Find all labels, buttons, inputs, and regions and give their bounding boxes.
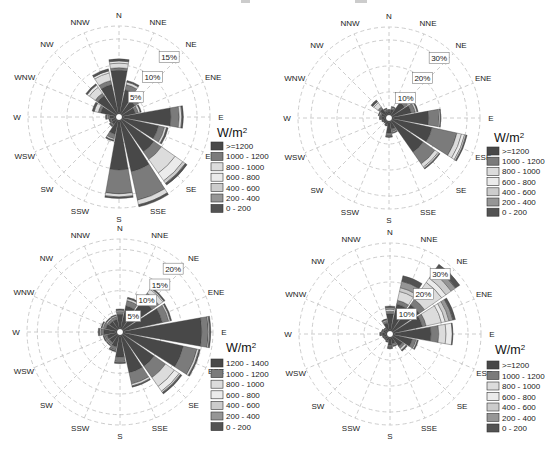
legend-label: 400 - 600 [502, 188, 536, 197]
legend-swatch [487, 208, 499, 216]
cropped-text-artifact [355, 0, 367, 3]
legend-swatch [487, 361, 499, 369]
ring-label: 15% [152, 281, 168, 290]
legend-swatch [211, 423, 223, 431]
direction-label-e: E [221, 328, 226, 337]
legend-title: W/m2 [495, 343, 526, 358]
legend-label: 600 - 800 [502, 393, 536, 402]
ring-label: 10% [398, 94, 414, 103]
petal-segment-E [438, 324, 446, 343]
rose-center-dot [117, 329, 124, 336]
figure-canvas: 5%10%15%NNNENEENEEESESESSESSSWSWWSWWWNWN… [0, 0, 547, 452]
legend-swatch [211, 370, 223, 378]
ring-label: 20% [414, 74, 430, 83]
wave-rose-bottom-left: 5%10%15%20%NNNENEENEEESESESSESSSWSWWSWWW… [12, 224, 269, 441]
petal-segment-S [386, 133, 392, 136]
legend-label: 1000 - 1200 [502, 157, 545, 166]
legend-swatch [211, 142, 223, 150]
legend-title: W/m2 [226, 341, 257, 356]
direction-label-ne: NE [457, 257, 468, 266]
petal-segment-N [116, 309, 124, 311]
legend-swatch [211, 391, 223, 399]
direction-label-nnw: NNW [341, 235, 361, 244]
direction-label-wsw: WSW [14, 367, 35, 376]
direction-label-wnw: WNW [285, 290, 306, 299]
petal-segment-E [170, 107, 179, 128]
petal-segment-N [385, 306, 395, 308]
legend-label: 0 - 200 [502, 424, 527, 433]
direction-label-ene: ENE [475, 74, 491, 83]
direction-label-ne: NE [186, 40, 197, 49]
legend-swatch [211, 380, 223, 388]
legend-label: >=1200 [226, 142, 254, 151]
direction-label-sw: SW [40, 401, 53, 410]
direction-label-wnw: WNW [13, 288, 34, 297]
legend-label: >=1200 [502, 361, 530, 370]
legend-label: 600 - 800 [502, 178, 536, 187]
wave-rose-top-left: 5%10%15%NNNENEENEEESESESSESSSWSWWSWWWNWN… [13, 11, 269, 224]
legend-title: W/m2 [494, 131, 525, 146]
direction-label-ne: NE [456, 41, 467, 50]
direction-label-ene: ENE [208, 288, 224, 297]
legend-top-left: W/m2>=12001000 - 1200800 - 1000600 - 800… [211, 126, 269, 214]
legend-top-right: W/m2>=12001000 - 1200800 - 1000600 - 800… [487, 131, 545, 218]
direction-label-nnw: NNW [340, 19, 360, 28]
legend-swatch [487, 178, 499, 186]
direction-label-nw: NW [40, 40, 54, 49]
legend-swatch [211, 173, 223, 181]
ring-label: 10% [139, 296, 155, 305]
direction-label-se: SE [188, 401, 199, 410]
ring-label: 30% [431, 54, 447, 63]
legend-swatch [487, 424, 499, 432]
cropped-text-artifact [241, 0, 250, 3]
wave-rose-bottom-right: 10%20%30%NNNENEENEEESESESSESSSWSWWSWWWNW… [284, 228, 545, 441]
legend-label: 800 - 1000 [502, 382, 541, 391]
legend-label: 200 - 400 [502, 414, 536, 423]
direction-label-sse: SSE [420, 208, 436, 217]
petal-segment-W [101, 329, 105, 336]
legend-swatch [487, 198, 499, 206]
petal-segment-W [380, 332, 381, 336]
wave-rose-top-right: 10%20%30%NNNENEENEEESESESSESSSWSWWSWWWNW… [283, 12, 545, 225]
legend-swatch [211, 359, 223, 367]
rose-center-dot [386, 115, 393, 122]
petal-segment-W [108, 115, 110, 119]
direction-label-ssw: SSW [342, 424, 361, 433]
direction-label-nnw: NNW [70, 18, 90, 27]
direction-label-nnw: NNW [71, 231, 91, 240]
direction-label-w: W [12, 328, 20, 337]
legend-label: 1000 - 1200 [502, 372, 545, 381]
legend-label: 0 - 200 [226, 204, 251, 213]
petal-segment-W [106, 115, 107, 120]
legend-label: 600 - 800 [226, 391, 260, 400]
legend-swatch [487, 382, 499, 390]
direction-label-s: S [116, 215, 121, 224]
legend-label: 1000 - 1200 [226, 152, 269, 161]
direction-label-se: SE [186, 185, 197, 194]
rose-petals [86, 59, 187, 207]
direction-label-s: S [387, 432, 392, 441]
direction-label-nne: NNE [151, 231, 168, 240]
direction-label-wnw: WNW [284, 74, 305, 83]
direction-label-sse: SSE [152, 424, 168, 433]
petal-segment-E [428, 109, 439, 126]
legend-label: 800 - 1000 [502, 167, 541, 176]
direction-label-sse: SSE [150, 207, 166, 216]
petal-segment-N [388, 110, 391, 111]
petal-segment-N [110, 63, 129, 68]
legend-swatch [211, 152, 223, 160]
direction-label-wsw: WSW [286, 369, 307, 378]
legend-swatch [211, 194, 223, 202]
legend-label: 0 - 200 [226, 423, 251, 432]
direction-label-w: W [13, 113, 21, 122]
ring-label: 20% [415, 290, 431, 299]
rose-center-dot [116, 114, 123, 121]
direction-label-ne: NE [188, 254, 199, 263]
direction-label-ssw: SSW [71, 207, 90, 216]
legend-swatch [211, 412, 223, 420]
petal-segment-E [445, 323, 452, 345]
legend-title: W/m2 [217, 126, 248, 141]
legend-label: >=1200 [502, 147, 530, 156]
petal-segment-S [387, 347, 392, 348]
ring-label: 30% [432, 270, 448, 279]
